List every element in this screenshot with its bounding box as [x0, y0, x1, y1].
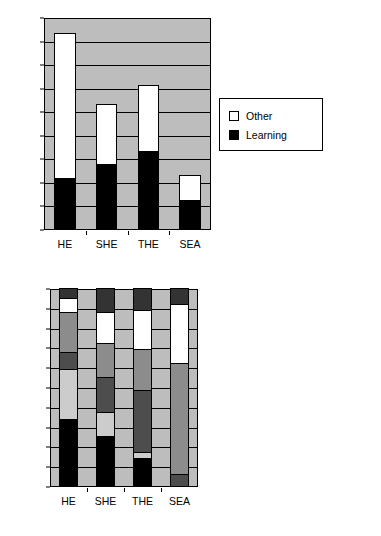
- y-axis-tick: [46, 407, 50, 408]
- x-axis-label-sea: SEA: [169, 496, 190, 507]
- bar-segment-curricular-innovation: [133, 390, 152, 453]
- bar-segment-cognitive-psychology: [96, 436, 115, 487]
- y-axis-tick: [40, 135, 44, 136]
- bar-segment-approaches-to-learning: [96, 412, 115, 437]
- top-chart-legend: OtherLearning: [219, 98, 323, 151]
- y-axis-tick: [40, 18, 44, 19]
- bar-segment-other: [179, 175, 201, 201]
- bar-segment-other: [138, 85, 160, 152]
- bar-segment-curricular-innovation: [170, 474, 189, 487]
- y-axis-tick: [40, 65, 44, 66]
- x-axis-tick: [87, 488, 88, 492]
- legend-swatch-icon: [229, 111, 239, 121]
- bar-she: [96, 289, 115, 487]
- legend-item-label: Learning: [246, 129, 287, 141]
- bar-segment-critical-perspectives: [170, 304, 189, 364]
- x-axis-label-he: HE: [61, 496, 76, 507]
- y-axis-tick: [40, 206, 44, 207]
- bar-he: [59, 289, 78, 487]
- stacked-bar-chart-totals: 050100150200250300350400450HESHETHESEA O…: [0, 0, 381, 270]
- bar-segment-social-context: [96, 343, 115, 378]
- bar-segment-learning: [138, 151, 160, 230]
- x-axis-label-she: SHE: [96, 239, 118, 250]
- x-axis-label-the: THE: [138, 239, 159, 250]
- y-axis-tick: [46, 447, 50, 448]
- y-axis-tick: [40, 159, 44, 160]
- legend-item: Other: [229, 106, 322, 125]
- x-axis-tick: [161, 488, 162, 492]
- x-axis-label-the: THE: [132, 496, 153, 507]
- bar-segment-discourse-writing: [96, 288, 115, 313]
- y-axis-tick: [40, 112, 44, 113]
- legend-item-label: Other: [246, 110, 272, 122]
- bar-segment-curricular-innovation: [59, 352, 78, 370]
- bar-sea: [179, 18, 201, 230]
- bar-segment-approaches-to-learning: [133, 452, 152, 459]
- y-axis-tick: [40, 88, 44, 89]
- bar-segment-approaches-to-learning: [59, 369, 78, 420]
- y-axis-tick: [46, 308, 50, 309]
- legend-swatch-icon: [229, 130, 239, 140]
- y-axis-tick: [46, 289, 50, 290]
- bar-segment-critical-perspectives: [133, 310, 152, 351]
- bar-segment-social-context: [59, 312, 78, 354]
- bar-segment-curricular-innovation: [96, 377, 115, 413]
- x-axis-tick: [169, 231, 170, 235]
- bar-segment-critical-perspectives: [59, 298, 78, 313]
- bar-the: [138, 18, 160, 230]
- bar-segment-discourse-writing: [170, 288, 189, 305]
- x-axis-label-he: HE: [58, 239, 73, 250]
- x-axis-tick: [128, 231, 129, 235]
- bar-segment-cognitive-psychology: [133, 458, 152, 487]
- x-axis-label-sea: SEA: [180, 239, 201, 250]
- x-axis-tick: [86, 231, 87, 235]
- bar-segment-learning: [96, 164, 118, 230]
- bar-segment-discourse-writing: [59, 288, 78, 299]
- x-axis-label-she: SHE: [95, 496, 117, 507]
- y-axis-tick: [40, 41, 44, 42]
- y-axis-tick: [40, 230, 44, 231]
- y-axis-tick: [46, 487, 50, 488]
- bar-she: [96, 18, 118, 230]
- y-axis-tick: [46, 388, 50, 389]
- legend-item: Learning: [229, 125, 322, 144]
- bar-segment-social-context: [133, 349, 152, 391]
- bar-segment-cognitive-psychology: [59, 419, 78, 487]
- bar-segment-other: [96, 104, 118, 165]
- bar-the: [133, 289, 152, 487]
- bar-segment-learning: [179, 200, 201, 230]
- y-axis-tick: [46, 348, 50, 349]
- stacked-bar-chart-percent: 0%10%20%30%40%50%60%70%80%90%100%HESHETH…: [0, 270, 381, 536]
- bar-segment-learning: [54, 178, 76, 230]
- bar-segment-discourse-writing: [133, 288, 152, 311]
- bar-segment-other: [54, 33, 76, 180]
- y-axis-tick: [46, 328, 50, 329]
- y-axis-tick: [40, 182, 44, 183]
- y-axis-tick: [46, 368, 50, 369]
- bar-sea: [170, 289, 189, 487]
- bar-segment-social-context: [170, 363, 189, 475]
- bar-segment-critical-perspectives: [96, 312, 115, 345]
- x-axis-tick: [124, 488, 125, 492]
- y-axis-tick: [46, 467, 50, 468]
- y-axis-tick: [46, 427, 50, 428]
- bar-he: [54, 18, 76, 230]
